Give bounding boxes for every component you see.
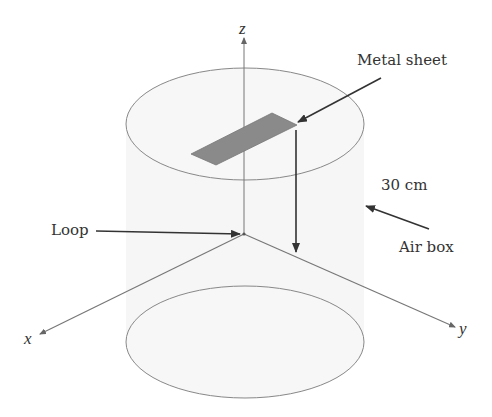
- air-box-top-face: [126, 68, 364, 180]
- x-axis-label: x: [23, 329, 32, 348]
- dimension-label: 30 cm: [381, 176, 427, 194]
- y-axis-label: y: [457, 319, 467, 338]
- air-box-label: Air box: [398, 238, 454, 256]
- air-box-diagram: z x y Metal sheet 30 cm Air box Loop: [0, 0, 492, 417]
- loop-label: Loop: [51, 221, 89, 239]
- air-box-arrow: [366, 206, 429, 229]
- metal-sheet-label: Metal sheet: [357, 51, 447, 69]
- origin-loop-point: [242, 232, 245, 235]
- air-box-bottom-face: [126, 286, 364, 398]
- z-axis-label: z: [238, 19, 246, 38]
